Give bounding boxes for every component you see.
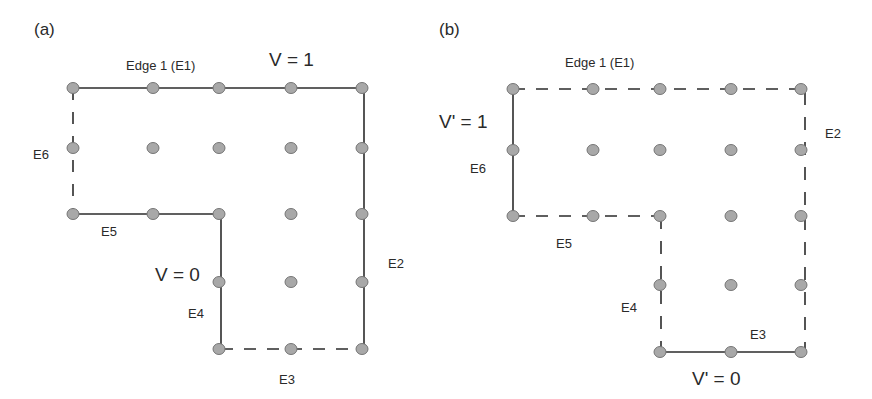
grid-node	[285, 143, 297, 154]
grid-node	[587, 84, 599, 95]
panel-a-e2-label: E2	[388, 256, 404, 271]
grid-node	[795, 211, 807, 222]
grid-node	[67, 143, 79, 154]
panel-a-e3-label: E3	[279, 372, 295, 387]
grid-node	[507, 145, 519, 156]
panel-b-label: (b)	[439, 20, 460, 40]
panel-b-v-high: V' = 1	[439, 111, 488, 133]
panel-b-nodes	[507, 84, 807, 358]
grid-node	[654, 280, 666, 291]
panel-a-nodes	[67, 83, 368, 355]
grid-node	[654, 84, 666, 95]
grid-node	[213, 277, 225, 288]
grid-node	[213, 344, 225, 355]
grid-node	[285, 344, 297, 355]
grid-node	[356, 344, 368, 355]
grid-node	[356, 143, 368, 154]
grid-node	[725, 280, 737, 291]
panel-b-e6-label: E6	[470, 161, 486, 176]
grid-node	[147, 209, 159, 220]
grid-node	[356, 209, 368, 220]
grid-node	[285, 83, 297, 94]
panel-b-e4-label: E4	[621, 300, 637, 315]
panel-b-v-low: V' = 0	[692, 368, 741, 390]
grid-node	[654, 211, 666, 222]
panel-b-e3-label: E3	[750, 327, 766, 342]
grid-node	[587, 145, 599, 156]
panel-a-e6-label: E6	[33, 147, 49, 162]
grid-node	[507, 211, 519, 222]
grid-node	[507, 84, 519, 95]
grid-node	[67, 83, 79, 94]
grid-node	[725, 145, 737, 156]
grid-node	[213, 209, 225, 220]
grid-node	[67, 209, 79, 220]
grid-node	[795, 347, 807, 358]
panel-a-v-low: V = 0	[155, 264, 200, 286]
grid-node	[654, 145, 666, 156]
panel-a-v-high: V = 1	[269, 49, 314, 71]
grid-node	[654, 347, 666, 358]
grid-node	[725, 84, 737, 95]
grid-node	[795, 84, 807, 95]
grid-node	[147, 83, 159, 94]
panel-a-title: Edge 1 (E1)	[126, 58, 195, 73]
panel-b-e2-label: E2	[825, 126, 841, 141]
panel-a-e4-label: E4	[188, 306, 204, 321]
grid-node	[587, 211, 599, 222]
panel-b-e5-label: E5	[556, 236, 572, 251]
grid-node	[213, 83, 225, 94]
grid-node	[285, 209, 297, 220]
panel-b-title: Edge 1 (E1)	[565, 55, 634, 70]
grid-node	[795, 280, 807, 291]
grid-node	[285, 277, 297, 288]
panel-a-e5-label: E5	[101, 224, 117, 239]
grid-node	[147, 143, 159, 154]
grid-node	[725, 347, 737, 358]
grid-node	[725, 211, 737, 222]
grid-node	[795, 145, 807, 156]
panel-a-label: (a)	[34, 20, 55, 40]
grid-node	[356, 83, 368, 94]
grid-node	[356, 277, 368, 288]
grid-node	[213, 143, 225, 154]
